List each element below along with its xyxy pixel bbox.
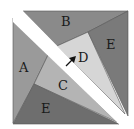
label-e-right: E <box>106 37 116 52</box>
label-c: C <box>58 78 68 93</box>
label-a: A <box>18 60 29 75</box>
label-e-bottom: E <box>41 101 51 116</box>
label-b: B <box>61 14 71 29</box>
dissection-diagram: ABCDEE <box>0 0 134 129</box>
label-d: D <box>78 50 88 65</box>
